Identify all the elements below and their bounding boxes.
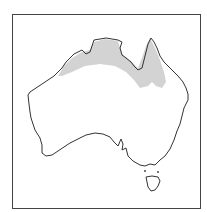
australia-map xyxy=(0,0,207,212)
shaded-region xyxy=(58,38,166,88)
bass-strait-island xyxy=(144,170,146,172)
tasmania xyxy=(146,176,160,191)
bass-strait-island xyxy=(157,171,159,173)
